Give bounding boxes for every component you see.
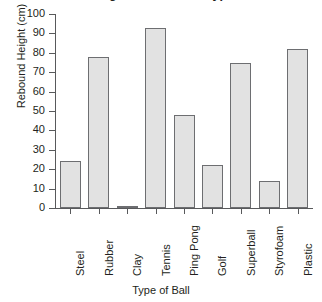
bar-rubber (88, 57, 109, 208)
plot-area (56, 14, 312, 208)
x-axis-label-ping-pong: Ping Pong (189, 225, 200, 276)
y-axis-tick-label: 10 (0, 183, 45, 194)
y-axis-tick (49, 150, 55, 151)
x-axis-title: Type of Ball (0, 284, 322, 296)
x-axis-tick (298, 209, 299, 214)
y-axis-tick (49, 189, 55, 190)
y-axis-tick-label: 20 (0, 163, 45, 174)
x-axis-tick (269, 209, 270, 214)
x-axis-tick (184, 209, 185, 214)
x-axis-label-styrofoam: Styrofoam (274, 226, 285, 276)
y-axis-tick (49, 111, 55, 112)
bar-steel (60, 161, 81, 208)
y-axis-tick (49, 53, 55, 54)
y-axis-tick-label: 50 (0, 105, 45, 116)
y-axis-tick (49, 33, 55, 34)
x-axis-tick (241, 209, 242, 214)
x-axis-label-rubber: Rubber (104, 240, 115, 276)
y-axis-tick-label: 0 (0, 202, 45, 213)
y-axis-tick (49, 92, 55, 93)
x-axis-label-superball: Superball (246, 230, 257, 276)
x-axis-label-clay: Clay (132, 254, 143, 276)
y-axis-tick (49, 14, 55, 15)
x-axis-label-tennis: Tennis (161, 244, 172, 276)
y-axis-tick (49, 130, 55, 131)
y-axis-tick-label: 70 (0, 66, 45, 77)
bar-clay (117, 206, 138, 208)
y-axis-tick-label: 60 (0, 86, 45, 97)
chart-title: Rebound Height of Different Types of Bal… (0, 0, 322, 3)
bar-superball (230, 63, 251, 209)
bar-tennis (145, 28, 166, 208)
bar-styrofoam (259, 181, 280, 208)
y-axis-tick-label: 30 (0, 144, 45, 155)
y-axis-tick-label: 90 (0, 27, 45, 38)
x-axis-tick (156, 209, 157, 214)
bar-plastic (287, 49, 308, 208)
y-axis-tick (49, 208, 55, 209)
bar-golf (202, 165, 223, 208)
x-axis-label-plastic: Plastic (303, 244, 314, 276)
x-axis-tick (127, 209, 128, 214)
x-axis-label-golf: Golf (217, 256, 228, 276)
x-axis-tick (70, 209, 71, 214)
y-axis-tick-label: 100 (0, 8, 45, 19)
y-axis-tick (49, 169, 55, 170)
x-axis-label-steel: Steel (75, 251, 86, 276)
y-axis-tick (49, 72, 55, 73)
x-axis-tick (212, 209, 213, 214)
y-axis-tick-label: 80 (0, 47, 45, 58)
x-axis-tick (99, 209, 100, 214)
y-axis-tick-label: 40 (0, 124, 45, 135)
bar-ping-pong (174, 115, 195, 208)
bar-chart: Rebound Height of Different Types of Bal… (0, 0, 322, 302)
